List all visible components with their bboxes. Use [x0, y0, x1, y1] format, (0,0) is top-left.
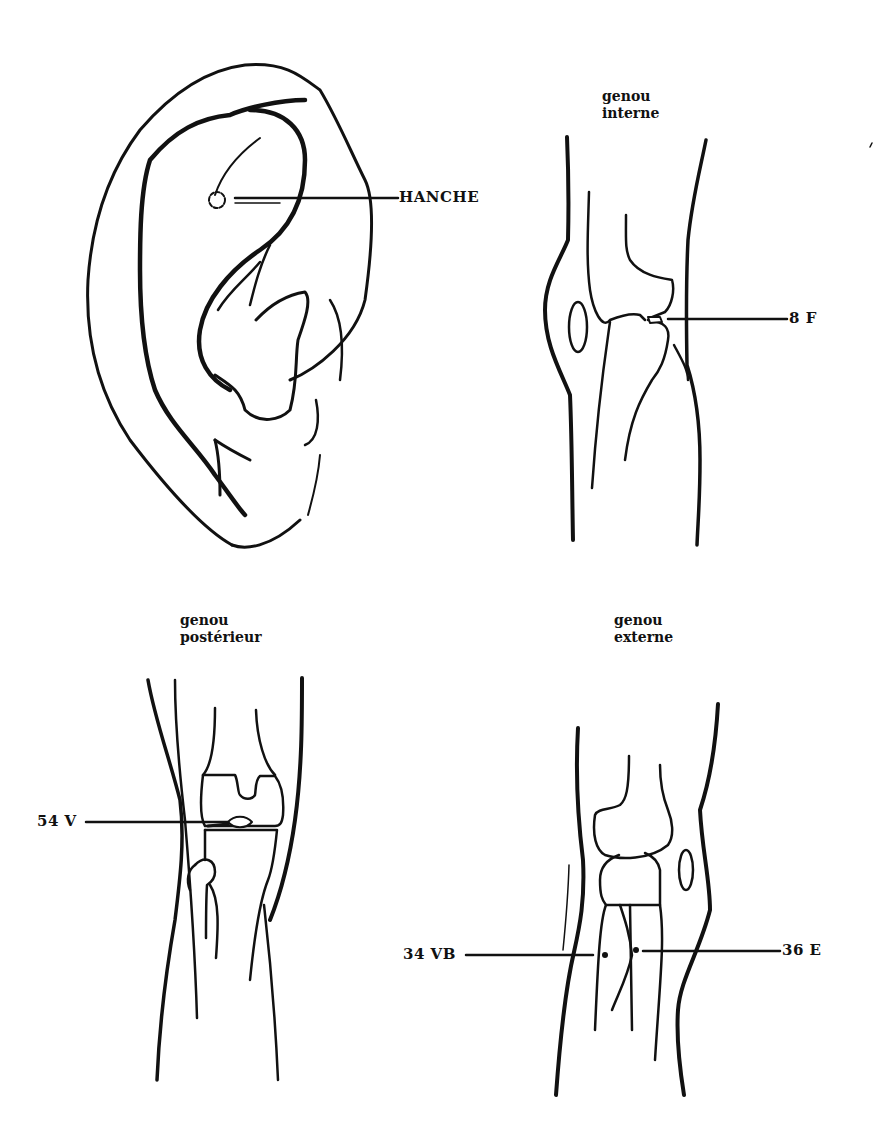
caption-knee-external-line2: externe: [614, 629, 673, 646]
page-number-cutoff: [0, 1136, 30, 1146]
caption-knee-internal: genou interne: [602, 88, 659, 122]
acupuncture-diagram-canvas: [0, 0, 875, 1146]
caption-knee-posterior: genou postérieur: [180, 612, 262, 646]
point-label-36e: 36 E: [782, 941, 822, 959]
ear-drawing: [88, 65, 398, 548]
point-label-8f: 8 F: [789, 309, 817, 327]
caption-knee-posterior-line1: genou: [180, 612, 262, 629]
knee-external-drawing: [466, 704, 780, 1095]
caption-knee-external: genou externe: [614, 612, 673, 646]
caption-knee-internal-line2: interne: [602, 105, 659, 122]
point-label-34vb: 34 VB: [403, 945, 456, 963]
caption-knee-internal-line1: genou: [602, 88, 659, 105]
caption-knee-external-line1: genou: [614, 612, 673, 629]
ear-point-label-hanche: HANCHE: [399, 188, 479, 206]
knee-internal-drawing: [545, 137, 787, 545]
stray-mark: [870, 143, 872, 147]
point-label-54v: 54 V: [37, 812, 77, 830]
knee-posterior-drawing: [86, 678, 302, 1080]
caption-knee-posterior-line2: postérieur: [180, 629, 262, 646]
